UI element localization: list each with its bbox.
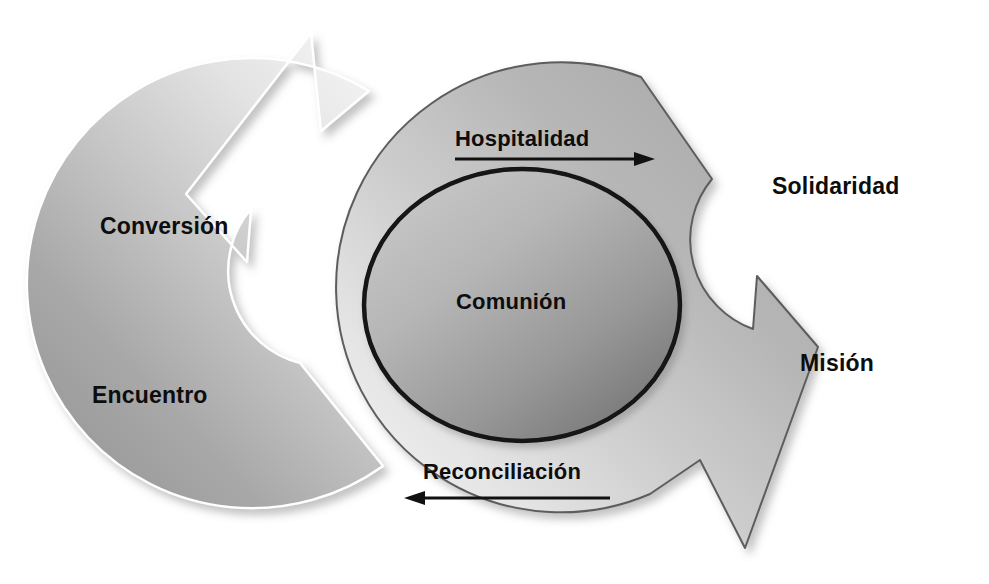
label-comunion: Comunión [456,291,566,313]
label-reconciliacion: Reconciliación [423,461,581,483]
reconciliacion-arrowhead-icon [404,491,425,505]
left-curved-arrow [27,33,383,508]
label-conversion: Conversión [100,215,229,238]
label-solidaridad: Solidaridad [772,175,899,198]
label-mision: Misión [800,352,874,375]
left-arc-shape [27,33,383,508]
label-hospitalidad: Hospitalidad [455,128,589,150]
label-encuentro: Encuentro [92,384,208,407]
diagram-canvas: Conversión Encuentro Solidaridad Misión … [0,0,989,584]
